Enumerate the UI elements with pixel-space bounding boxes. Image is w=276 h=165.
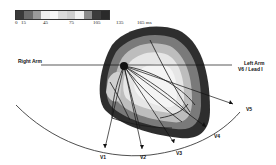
v6-lead-i-label: V6 / Lead I [238, 66, 263, 72]
lead-label-v4: V4 [214, 133, 220, 139]
lead-label-v3: V3 [176, 150, 182, 156]
lead-label-v5: V5 [246, 106, 252, 112]
heart-activation-diagram [0, 0, 276, 165]
lead-label-v2: V2 [140, 154, 146, 160]
lead-label-v1: V1 [100, 154, 106, 160]
right-arm-label: Right Arm [18, 58, 42, 64]
